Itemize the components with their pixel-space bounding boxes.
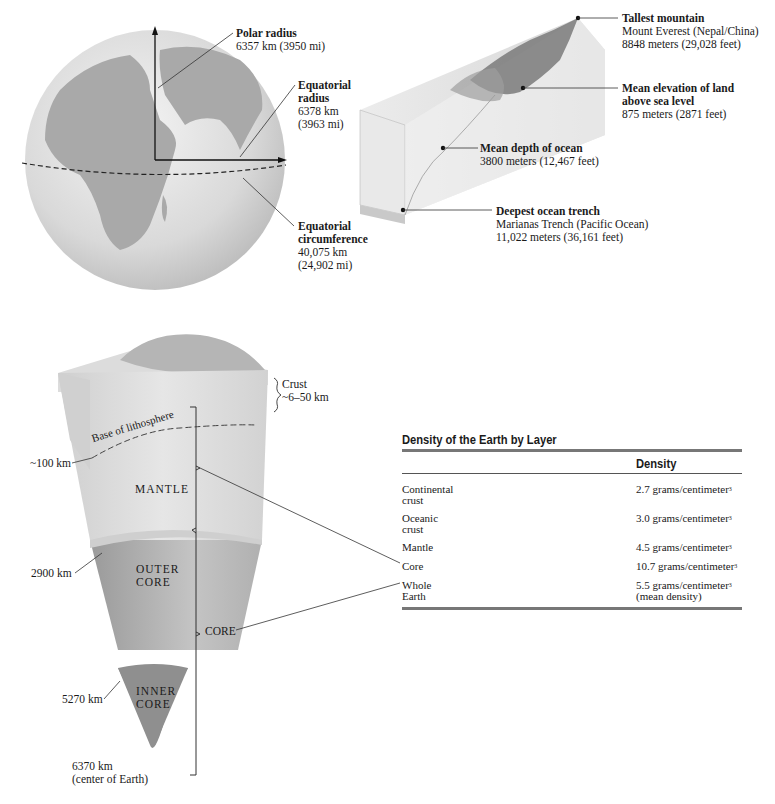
depth-6370km: 6370 km xyxy=(72,760,148,773)
inner-core-line-2: CORE xyxy=(136,698,176,711)
deepest-trench-title: Deepest ocean trench xyxy=(496,205,648,218)
table-top-rule xyxy=(402,449,742,452)
equatorial-radius-label: Equatorial radius 6378 km (3963 mi) xyxy=(298,79,351,131)
equatorial-circumference-label: Equatorial circumference 40,075 km (24,9… xyxy=(298,220,368,272)
density-value: 2.7 grams/centimeter3 xyxy=(636,484,732,495)
mean-depth-value: 3800 meters (12,467 feet) xyxy=(480,155,599,168)
equatorial-radius-title-2: radius xyxy=(298,92,351,105)
circumference-mi: (24,902 mi) xyxy=(298,259,368,272)
outer-core-line-2: CORE xyxy=(136,576,179,589)
equatorial-radius-km: 6378 km xyxy=(298,105,351,118)
mean-depth-label: Mean depth of ocean 3800 meters (12,467 … xyxy=(480,142,599,168)
crust-title: Crust xyxy=(282,378,329,391)
layer-name: Core xyxy=(402,561,522,572)
mean-depth-title: Mean depth of ocean xyxy=(480,142,599,155)
deepest-trench-label: Deepest ocean trench Marianas Trench (Pa… xyxy=(496,205,648,244)
tallest-mountain-title: Tallest mountain xyxy=(622,12,759,25)
table-header-rule xyxy=(402,473,742,474)
circumference-title-1: Equatorial xyxy=(298,220,368,233)
density-value: 10.7 grams/centimeter3 xyxy=(636,561,737,572)
polar-radius-value: 6357 km (3950 mi) xyxy=(236,40,325,53)
layer-name: Oceaniccrust xyxy=(402,513,522,535)
earth-cross-section-illustration xyxy=(58,334,400,775)
tallest-mountain-label: Tallest mountain Mount Everest (Nepal/Ch… xyxy=(622,12,759,51)
layer-name: Continentalcrust xyxy=(402,484,522,506)
depth-5270km-label: 5270 km xyxy=(62,693,103,706)
tallest-mountain-name: Mount Everest (Nepal/China) xyxy=(622,25,759,38)
density-value: 5.5 grams/centimeter3(mean density) xyxy=(636,580,732,602)
layer-name: Mantle xyxy=(402,542,522,553)
globe-illustration xyxy=(22,26,295,290)
deepest-trench-depth: 11,022 meters (36,161 feet) xyxy=(496,231,648,244)
circumference-km: 40,075 km xyxy=(298,246,368,259)
density-value: 4.5 grams/centimeter3 xyxy=(636,542,732,553)
inner-core-line-1: INNER xyxy=(136,685,176,698)
table-bottom-rule xyxy=(402,607,742,610)
center-of-earth: (center of Earth) xyxy=(72,773,148,786)
density-table-title: Density of the Earth by Layer xyxy=(402,432,557,447)
depth-2900km-label: 2900 km xyxy=(31,567,72,580)
equatorial-radius-title-1: Equatorial xyxy=(298,79,351,92)
mean-elevation-label: Mean elevation of land above sea level 8… xyxy=(622,82,734,121)
polar-radius-title: Polar radius xyxy=(236,27,325,40)
crust-label: Crust ~6–50 km xyxy=(282,378,329,404)
crust-range: ~6–50 km xyxy=(282,391,329,404)
depth-100km-label: ~100 km xyxy=(30,457,71,470)
outer-core-label: OUTER CORE xyxy=(136,563,179,589)
mean-elevation-value: 875 meters (2871 feet) xyxy=(622,108,734,121)
outer-core-line-1: OUTER xyxy=(136,563,179,576)
equatorial-radius-mi: (3963 mi) xyxy=(298,118,351,131)
mean-elevation-title-2: above sea level xyxy=(622,95,734,108)
mantle-label: MANTLE xyxy=(135,483,189,496)
deepest-trench-name: Marianas Trench (Pacific Ocean) xyxy=(496,218,648,231)
core-label: CORE xyxy=(205,625,236,638)
density-value: 3.0 grams/centimeter3 xyxy=(636,513,732,524)
inner-core-label: INNER CORE xyxy=(136,685,176,711)
layer-name: WholeEarth xyxy=(402,580,522,602)
polar-radius-label: Polar radius 6357 km (3950 mi) xyxy=(236,27,325,53)
tallest-mountain-height: 8848 meters (29,028 feet) xyxy=(622,38,759,51)
density-column-header: Density xyxy=(636,456,676,471)
center-depth-label: 6370 km (center of Earth) xyxy=(72,760,148,786)
relief-block-illustration xyxy=(360,16,618,224)
mean-elevation-title-1: Mean elevation of land xyxy=(622,82,734,95)
circumference-title-2: circumference xyxy=(298,233,368,246)
